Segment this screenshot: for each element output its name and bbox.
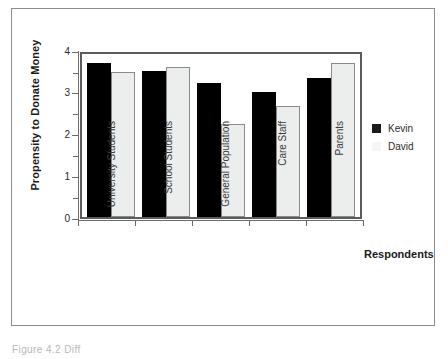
x-cat-label-university-students: University Students (107, 121, 117, 231)
legend-swatch-david-icon (372, 142, 381, 151)
legend-label-kevin: Kevin (388, 123, 413, 134)
y-tick-label-4: 4 (58, 47, 70, 57)
legend-swatch-kevin-icon (372, 124, 381, 133)
figure-frame: Propensity to Donate Money 4 3 2 1 0 (11, 8, 435, 326)
bar-kevin-parents (307, 78, 331, 217)
y-tick-label-1: 1 (58, 172, 70, 182)
x-axis-title: Respondents (364, 248, 434, 260)
bar-kevin-general-population (197, 83, 221, 217)
y-minor-tick-1p5 (73, 156, 78, 157)
bar-kevin-care-staff (252, 92, 276, 217)
y-minor-tick-3p5 (73, 73, 78, 74)
figure-caption: Figure 4.2 Diff (12, 344, 81, 355)
legend-label-david: David (388, 141, 414, 152)
chart-legend: Kevin David (372, 119, 442, 155)
y-minor-tick-2p5 (73, 114, 78, 115)
y-tick-label-2: 2 (58, 130, 70, 140)
legend-item-kevin: Kevin (372, 119, 442, 137)
y-minor-tick-0p5 (73, 198, 78, 199)
bar-group-parents (303, 54, 358, 217)
bar-group-care-staff (248, 54, 303, 217)
legend-item-david: David (372, 137, 442, 155)
x-cat-label-parents: Parents (335, 121, 345, 231)
x-tick-5 (363, 220, 364, 226)
x-cat-label-general-population: General Population (221, 121, 231, 231)
x-tick-2 (192, 220, 193, 226)
x-cat-label-school-students: School Students (164, 121, 174, 231)
y-tick-3 (72, 93, 78, 94)
y-axis-title: Propensity to Donate Money (29, 30, 41, 200)
y-tick-4 (72, 52, 78, 53)
y-axis-line (78, 51, 79, 220)
x-tick-3 (249, 220, 250, 226)
y-tick-label-0: 0 (58, 214, 70, 224)
x-cat-label-care-staff: Care Staff (278, 121, 288, 231)
y-tick-2 (72, 135, 78, 136)
x-tick-0 (78, 220, 79, 226)
x-tick-4 (306, 220, 307, 226)
y-tick-label-3: 3 (58, 88, 70, 98)
x-tick-1 (135, 220, 136, 226)
y-tick-1 (72, 177, 78, 178)
